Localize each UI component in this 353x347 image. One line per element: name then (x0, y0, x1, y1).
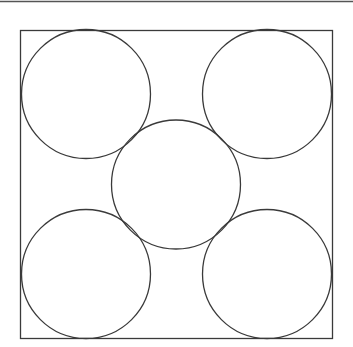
circle-top-left (22, 30, 151, 159)
outer-square (21, 31, 333, 339)
circles-in-square-diagram (0, 0, 353, 347)
circle-bottom-right (203, 210, 332, 339)
circle-group (22, 30, 332, 339)
circle-bottom-left (22, 210, 151, 339)
circle-center (112, 120, 241, 249)
